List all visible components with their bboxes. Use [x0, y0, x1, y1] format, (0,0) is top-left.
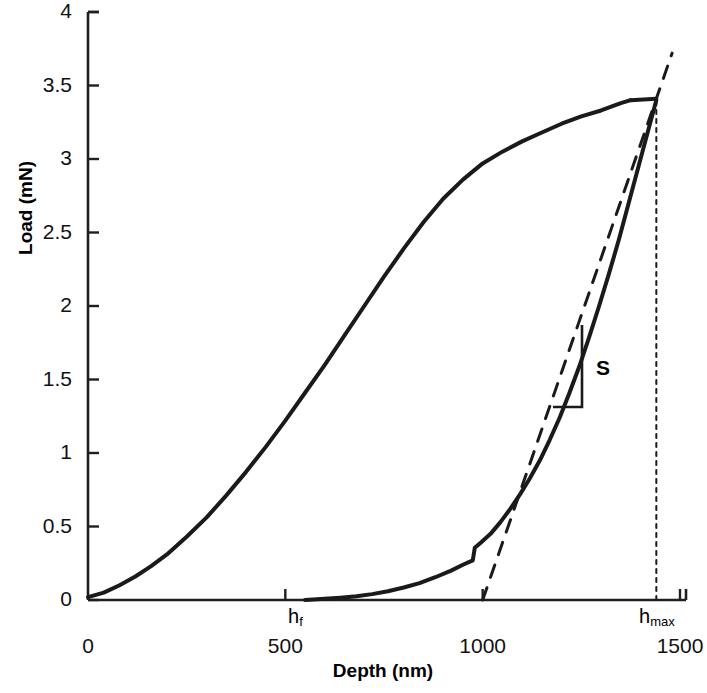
hmax-annotation-label: hmax: [639, 605, 675, 629]
x-tick-label: 1000: [433, 634, 533, 658]
series-unloading: [305, 100, 656, 600]
axes-lines: [88, 12, 686, 600]
x-tick-label: 1500: [630, 634, 707, 658]
y-tick-label: 1.5: [10, 367, 72, 391]
y-tick-label: 1: [10, 440, 72, 464]
hmax-subscript: max: [650, 614, 675, 629]
x-axis-title: Depth (nm): [283, 660, 483, 682]
y-tick-label: 4: [10, 0, 72, 23]
hf-base: h: [288, 605, 299, 627]
hmax-base: h: [639, 605, 650, 627]
y-axis-title: Load (mN): [15, 148, 37, 268]
series-hold: [631, 99, 657, 100]
data-series-group: [88, 53, 672, 600]
y-tick-label: 2: [10, 293, 72, 317]
x-tick-label: 500: [235, 634, 335, 658]
figure-container: 00.511.522.533.54 050010001500 Load (mN)…: [0, 0, 707, 693]
hf-annotation-label: hf: [288, 605, 303, 629]
hf-subscript: f: [299, 614, 303, 629]
y-tick-label: 0.5: [10, 514, 72, 538]
stiffness-label: S: [596, 356, 610, 380]
x-tick-label: 0: [38, 634, 138, 658]
y-tick-label: 3.5: [10, 73, 72, 97]
load-depth-plot: [0, 0, 707, 693]
series-tangent-stiffness: [483, 53, 672, 600]
series-loading: [88, 100, 631, 597]
y-tick-label: 0: [10, 587, 72, 611]
y-axis-ticks: [88, 12, 99, 600]
